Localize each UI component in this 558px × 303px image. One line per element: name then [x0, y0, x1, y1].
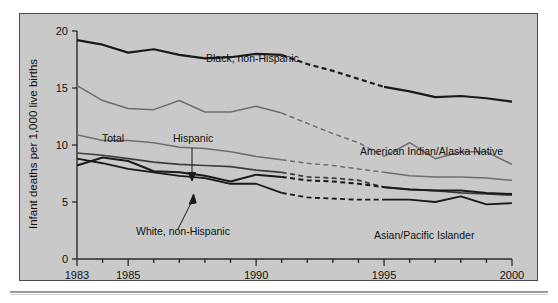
white-leader-arrow [189, 194, 196, 204]
series-label: Total [102, 132, 124, 144]
y-axis-title: Infant deaths per 1,000 live births [27, 59, 39, 229]
y-tick-label: 20 [56, 25, 68, 37]
line-chart: 05101520 19831985199019952000 Black, non… [20, 14, 539, 282]
series-label: Hispanic [173, 132, 213, 144]
y-tick-label: 10 [56, 139, 68, 151]
series-segment [384, 87, 512, 102]
footer-rule-shadow [10, 294, 548, 295]
series-label: American Indian/Alaska Native [360, 145, 503, 157]
series-annotations: Black, non-HispanicAmerican Indian/Alask… [102, 52, 503, 241]
series-white-non-hispanic [77, 158, 512, 194]
series-label: Asian/Pacific Islander [374, 229, 475, 241]
series-segment [384, 196, 512, 204]
series-asian-pacific-islander [77, 159, 512, 205]
series-hispanic [77, 153, 512, 195]
y-tick-label: 5 [62, 196, 68, 208]
series-segment [77, 86, 282, 113]
series-lines [77, 40, 512, 204]
chart-figure-box: 05101520 19831985199019952000 Black, non… [19, 13, 538, 281]
x-tick-labels: 19831985199019952000 [65, 269, 524, 281]
series-segment [282, 160, 384, 173]
series-black-non-hispanic [77, 40, 512, 102]
annotation-leaders [178, 148, 196, 229]
x-tick-label: 1985 [116, 269, 140, 281]
series-label: Black, non-Hispanic [206, 52, 299, 64]
x-tick-label: 1990 [244, 269, 268, 281]
series-total [77, 135, 512, 181]
y-tick-label: 0 [62, 253, 68, 265]
series-segment [282, 193, 384, 200]
series-segment [384, 172, 512, 180]
series-label: White, non-Hispanic [136, 225, 230, 237]
y-tick-labels: 05101520 [56, 25, 68, 265]
y-tick-label: 15 [56, 82, 68, 94]
x-tick-label: 2000 [500, 269, 524, 281]
series-segment [384, 187, 512, 194]
footer-rule [10, 291, 548, 293]
figure-root: 05101520 19831985199019952000 Black, non… [0, 0, 558, 303]
x-tick-label: 1995 [372, 269, 396, 281]
x-tick-label: 1983 [65, 269, 89, 281]
x-tick-marks [77, 259, 512, 266]
y-tick-marks [72, 31, 77, 259]
